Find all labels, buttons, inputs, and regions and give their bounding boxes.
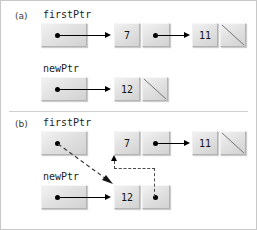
part-b-relink-horizontal-segment: [114, 168, 155, 169]
part-b-node-7-next-line: [154, 143, 187, 144]
part-b-node-12-value-cell: 12: [114, 185, 140, 209]
part-b-relink-arrowhead: [111, 155, 117, 161]
null-slash-icon: [221, 132, 245, 154]
node-value: 11: [193, 138, 217, 149]
part-a-firstptr-label: firstPtr: [43, 9, 91, 20]
null-slash-icon: [221, 24, 245, 46]
node-value: 7: [115, 138, 139, 149]
node-value: 11: [193, 30, 217, 41]
part-a-firstptr-arrowhead: [105, 32, 111, 38]
part-b-newptr-arrow-line: [56, 197, 108, 198]
part-b-node-12-next-cell: [142, 185, 170, 209]
firstptr-dashed-arrowhead: [102, 175, 113, 184]
part-b-firstptr-label: firstPtr: [43, 117, 91, 128]
node-value: 12: [115, 192, 139, 203]
part-b-newptr-arrowhead: [105, 194, 111, 200]
part-a-label: (a): [15, 11, 28, 21]
part-b-node-11-null-cell: [220, 131, 246, 155]
part-b-relink-riser-segment: [114, 161, 115, 169]
linked-list-figure: (a) firstPtr 7 11 newPtr 12 (b) fi: [0, 0, 257, 230]
part-a-newptr-arrow-line: [56, 89, 108, 90]
node-value: 12: [115, 84, 139, 95]
part-b-newptr-label: newPtr: [43, 171, 79, 182]
part-b-node-7-next-arrowhead: [184, 140, 190, 146]
null-slash-icon: [143, 78, 167, 100]
part-a-node-7-next-line: [154, 35, 187, 36]
part-b-node-11-value-cell: 11: [192, 131, 218, 155]
part-b-label: (b): [15, 119, 28, 129]
part-a-newptr-label: newPtr: [43, 63, 79, 74]
node-value: 7: [115, 30, 139, 41]
part-a-node-11-null-cell: [220, 23, 246, 47]
part-a-node-7-value-cell: 7: [114, 23, 140, 47]
part-a-node-11-value-cell: 11: [192, 23, 218, 47]
part-a-newptr-arrowhead: [105, 86, 111, 92]
part-a-node-7-next-arrowhead: [184, 32, 190, 38]
part-a-firstptr-arrow-line: [56, 35, 108, 36]
part-b-node-7-value-cell: 7: [114, 131, 140, 155]
part-a-node-12-value-cell: 12: [114, 77, 140, 101]
part-divider: [9, 111, 248, 112]
part-a-node-12-null-cell: [142, 77, 168, 101]
part-b-firstptr-box: [41, 131, 87, 155]
pointer-dot: [55, 141, 60, 146]
part-b-relink-vertical-segment: [154, 168, 155, 197]
